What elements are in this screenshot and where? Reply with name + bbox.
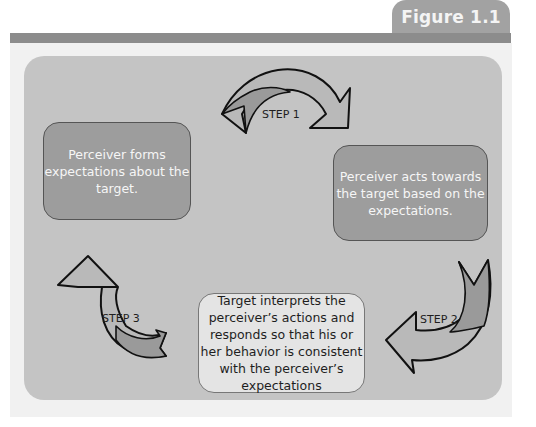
step-1-arrow-icon	[222, 69, 350, 133]
box-perceiver-acts: Perceiver acts towards the target based …	[333, 145, 488, 241]
step-1-label: STEP 1	[262, 108, 300, 121]
box-form-expectations-text: Perceiver forms expectations about the t…	[44, 146, 190, 197]
step-3-label: STEP 3	[102, 312, 140, 325]
box-target-interprets: Target interprets the perceiver’s action…	[198, 293, 365, 393]
step-3-arrow-icon	[58, 256, 166, 359]
box-target-interprets-text: Target interprets the perceiver’s action…	[199, 292, 364, 394]
step-2-label: STEP 2	[420, 313, 458, 326]
box-perceiver-acts-text: Perceiver acts towards the target based …	[334, 168, 487, 219]
box-form-expectations: Perceiver forms expectations about the t…	[43, 122, 191, 220]
